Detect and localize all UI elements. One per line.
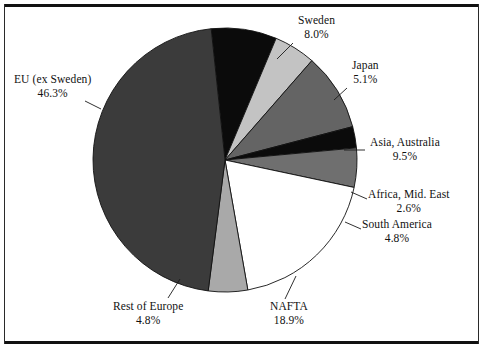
pie-slice-label: Rest of Europe4.8%: [113, 300, 183, 327]
pie-chart-canvas: [0, 0, 483, 349]
pie-slice-label-value: 18.9%: [270, 314, 308, 328]
pie-slice-label: Japan5.1%: [352, 59, 379, 86]
pie-slice-label-name: Sweden: [298, 14, 335, 28]
pie-slice-label: Sweden8.0%: [298, 14, 335, 41]
leader-line: [285, 276, 296, 299]
pie-slice-label-name: Rest of Europe: [113, 300, 183, 314]
pie-slice-label-value: 4.8%: [113, 314, 183, 328]
pie-slice-label-value: 4.8%: [362, 232, 432, 246]
pie-slice-label: EU (ex Sweden)46.3%: [14, 73, 91, 100]
pie-slice-label-value: 8.0%: [298, 28, 335, 42]
pie-slice-label-value: 2.6%: [368, 202, 450, 216]
pie-slice-label-name: NAFTA: [270, 300, 308, 314]
pie-slice-label-value: 9.5%: [370, 150, 440, 164]
pie-slice-group: [93, 28, 357, 292]
pie-slice-label-name: EU (ex Sweden): [14, 73, 91, 87]
pie-slice-label: Africa, Mid. East2.6%: [368, 188, 450, 215]
leader-line: [85, 101, 101, 109]
pie-slice-label-name: Japan: [352, 59, 379, 73]
leader-line: [351, 192, 367, 199]
pie-slice-label-name: Asia, Australia: [370, 136, 440, 150]
pie-slice[interactable]: [93, 29, 225, 291]
pie-slice-label: Asia, Australia9.5%: [370, 136, 440, 163]
pie-slice-label-name: South America: [362, 218, 432, 232]
pie-slice-label: South America4.8%: [362, 218, 432, 245]
pie-slice-label-value: 5.1%: [352, 73, 379, 87]
pie-slice-label-name: Africa, Mid. East: [368, 188, 450, 202]
pie-chart-figure: Sweden8.0%Japan5.1%Asia, Australia9.5%Af…: [0, 0, 483, 349]
pie-slice-label-value: 46.3%: [14, 87, 91, 101]
leader-line: [345, 222, 361, 229]
pie-slice-label: NAFTA18.9%: [270, 300, 308, 327]
